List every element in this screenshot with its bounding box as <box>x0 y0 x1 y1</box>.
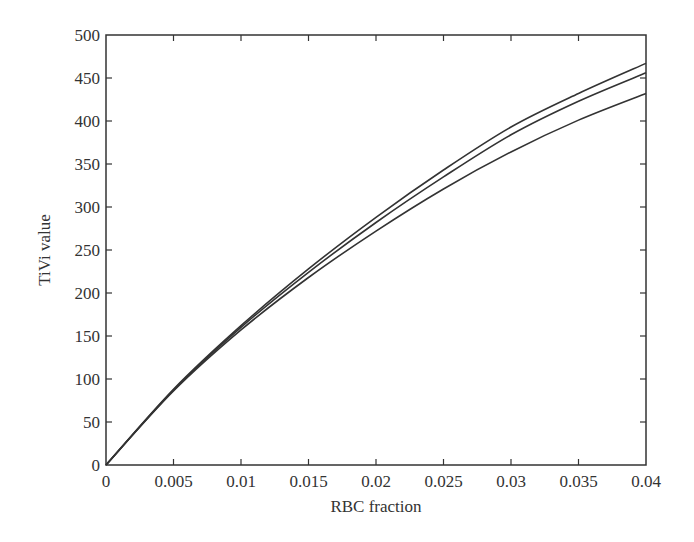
y-tick-label: 500 <box>75 26 101 45</box>
x-tick-label: 0.005 <box>154 472 192 491</box>
y-tick-label: 350 <box>75 155 101 174</box>
y-tick-label: 50 <box>83 413 100 432</box>
x-tick-label: 0.03 <box>496 472 526 491</box>
y-axis: 050100150200250300350400450500 <box>75 26 647 475</box>
y-axis-title: TiVi value <box>35 214 54 286</box>
y-tick-label: 0 <box>92 456 101 475</box>
x-tick-label: 0 <box>102 472 111 491</box>
series-line-curve-3 <box>106 93 646 465</box>
x-tick-label: 0.04 <box>631 472 661 491</box>
series-line-curve-1 <box>106 63 646 465</box>
y-tick-label: 150 <box>75 327 101 346</box>
x-tick-label: 0.015 <box>289 472 327 491</box>
y-tick-label: 200 <box>75 284 101 303</box>
x-axis-title: RBC fraction <box>330 497 422 516</box>
x-tick-label: 0.035 <box>559 472 597 491</box>
line-chart: 00.0050.010.0150.020.0250.030.0350.04 05… <box>0 0 694 542</box>
y-tick-label: 400 <box>75 112 101 131</box>
plot-lines <box>106 63 646 465</box>
x-tick-label: 0.025 <box>424 472 462 491</box>
y-tick-label: 450 <box>75 69 101 88</box>
x-tick-label: 0.02 <box>361 472 391 491</box>
y-tick-label: 100 <box>75 370 101 389</box>
y-tick-label: 300 <box>75 198 101 217</box>
x-axis: 00.0050.010.0150.020.0250.030.0350.04 <box>102 35 662 491</box>
x-tick-label: 0.01 <box>226 472 256 491</box>
y-tick-label: 250 <box>75 241 101 260</box>
series-line-curve-2 <box>106 73 646 465</box>
